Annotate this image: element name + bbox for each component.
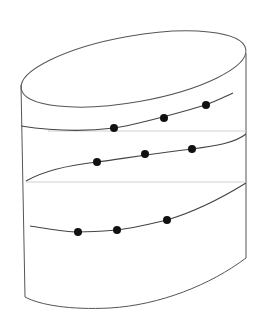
cylinder-outline bbox=[16, 17, 252, 309]
cylinder-diagram bbox=[0, 0, 267, 331]
point-3-1 bbox=[74, 228, 82, 236]
helical-curves bbox=[21, 93, 246, 232]
point-1-3 bbox=[202, 101, 210, 109]
helix-curve-1 bbox=[21, 93, 233, 130]
point-3-2 bbox=[113, 226, 121, 234]
point-2-3 bbox=[188, 145, 196, 153]
point-3-3 bbox=[163, 216, 171, 224]
point-2-2 bbox=[141, 150, 149, 158]
helix-curve-2 bbox=[26, 134, 246, 181]
helix-curve-3 bbox=[30, 183, 246, 232]
left-edge bbox=[21, 85, 25, 297]
diagram-canvas bbox=[0, 0, 267, 331]
bottom-edge bbox=[25, 258, 246, 308]
point-1-1 bbox=[110, 124, 118, 132]
curve-points bbox=[74, 101, 210, 236]
top-ellipse bbox=[16, 17, 252, 122]
point-2-1 bbox=[93, 158, 101, 166]
point-1-2 bbox=[160, 114, 168, 122]
